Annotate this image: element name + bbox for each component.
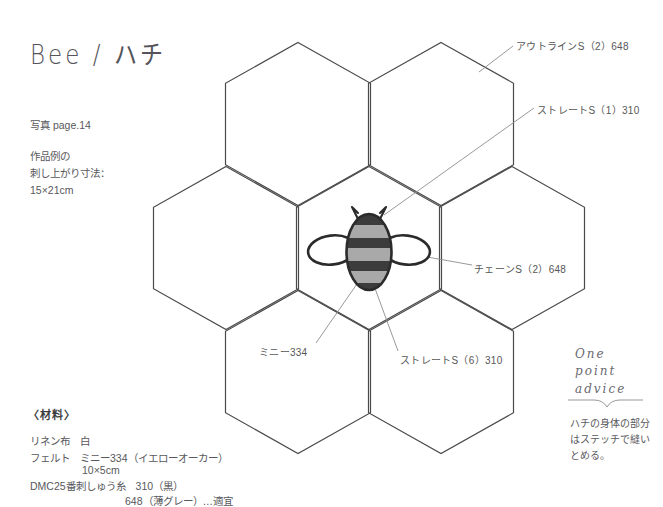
hex-cell-bottom-left [226,291,371,454]
hex-cell-top-left [226,43,371,206]
finished-size-note: 作品例の 刺し上がり寸法： 15×21cm [30,148,110,199]
annotation-chain-stitch: チェーンS（2）648 [474,261,566,276]
advice-body: ハチの身体の部分 はステッチで縫い とめる。 [570,416,650,465]
bee-body [344,212,394,295]
leader-straight-stitch-1 [384,108,534,215]
bee-honeycomb-diagram [0,0,663,507]
photo-reference: 写真 page.14 [30,117,91,133]
materials-item-felt-size: 10×5cm [82,464,120,476]
materials-item-floss-648: 648（薄グレー）…適宜 [125,493,233,507]
hex-cell-bottom-right [369,291,514,454]
bee-motif [306,207,431,295]
leader-outline-stitch [479,46,513,72]
annotation-mini-felt: ミニー334 [259,344,308,359]
bee-stripe-3 [344,261,394,271]
hex-cell-middle-left [154,167,299,330]
materials-heading: 〈材料〉 [28,407,76,424]
annotation-outline-stitch: アウトラインS（2）648 [516,38,629,53]
annotation-straight-stitch-1: ストレートS（1）310 [537,102,640,117]
page-title: Bee / ハチ [30,36,166,76]
leader-mini-felt [316,281,359,343]
bee-stripe-2 [344,238,394,248]
advice-divider [568,400,643,407]
hex-cell-middle-right [440,167,585,330]
hex-cell-top-right [369,43,514,206]
advice-title: One point advice [575,346,626,398]
pattern-page: Bee / ハチ 写真 page.14 作品例の 刺し上がり寸法： 15×21c… [0,0,663,507]
materials-item-felt: フェルト ミニー334（イエローオーカー） [30,450,228,465]
annotation-straight-stitch-6: ストレートS（6）310 [400,352,503,367]
materials-item-floss-310: DMC25番刺しゅう糸 310（黒） [30,478,183,493]
materials-item-linen: リネン布 白 [30,433,90,448]
